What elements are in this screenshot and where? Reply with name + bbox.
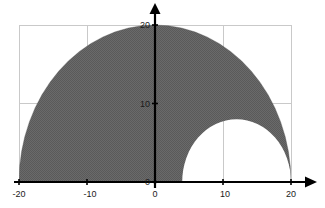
xtick-label-10: 10 xyxy=(220,190,230,199)
xtick-label--10: -10 xyxy=(83,190,96,199)
ytick-label-0: 0 xyxy=(128,178,150,187)
ytick-label-10: 10 xyxy=(128,100,150,109)
xtick-label-0: 0 xyxy=(152,190,157,199)
xtick-label-20: 20 xyxy=(286,190,296,199)
ytick-label-20: 20 xyxy=(128,21,150,30)
plot-figure: -20 -10 0 10 20 0 10 20 xyxy=(0,0,325,208)
plot-canvas xyxy=(0,0,325,208)
origin-marker xyxy=(153,180,157,184)
xtick-label--20: -20 xyxy=(12,190,25,199)
shaded-region xyxy=(0,0,325,208)
